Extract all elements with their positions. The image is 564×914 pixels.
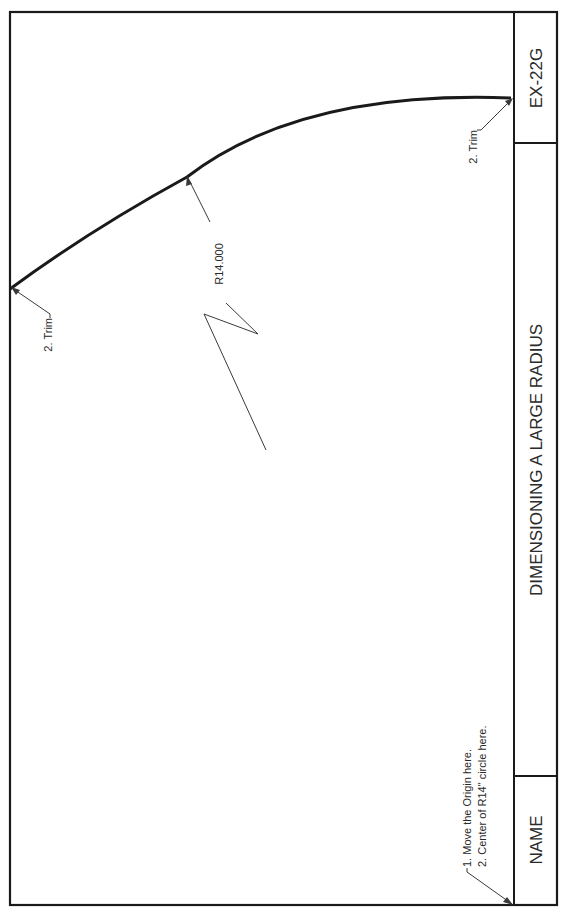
drawing-number: EX-22G: [527, 48, 546, 108]
trim-note-right: 2. Trim: [467, 130, 479, 164]
origin-leader: [467, 868, 512, 904]
drawing-sheet: EX-22G DIMENSIONING A LARGE RADIUS NAME …: [0, 0, 564, 914]
drawing-canvas: EX-22G DIMENSIONING A LARGE RADIUS NAME …: [0, 0, 564, 914]
radius-leader-upper: [188, 178, 210, 222]
radius-jog-line: [204, 303, 266, 450]
trim-leader-right: [477, 99, 512, 130]
origin-note-1: 1. Move the Origin here.: [461, 749, 473, 867]
trim-note-left: 2. Trim: [42, 318, 54, 352]
drawing-title: DIMENSIONING A LARGE RADIUS: [527, 324, 546, 596]
trim-arrowhead-left-icon: [11, 287, 20, 295]
radius-arc: [10, 97, 511, 289]
name-label: NAME: [527, 815, 546, 864]
origin-note-2: 2. Center of R14" circle here.: [476, 726, 488, 867]
radius-dimension-label: R14.000: [213, 243, 225, 285]
